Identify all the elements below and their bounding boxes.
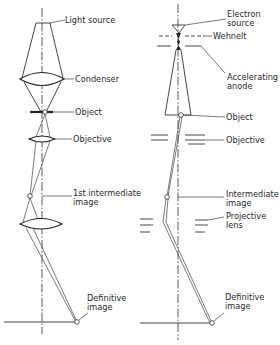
label-definitive-2: image: [87, 302, 113, 312]
electron-source: [172, 25, 185, 33]
leader: [183, 115, 225, 117]
definitive-image-point: [210, 321, 215, 326]
condenser-lens: [20, 73, 64, 86]
leader: [214, 313, 224, 321]
ray: [31, 141, 50, 196]
ray: [23, 198, 30, 222]
label-light-source: Light source: [65, 15, 115, 25]
objective-lens: [29, 136, 55, 142]
label-electron-source-2: source: [227, 18, 254, 28]
beam-cone-left: [165, 50, 176, 115]
ray: [166, 222, 212, 323]
ray: [26, 228, 76, 322]
leader: [185, 19, 226, 25]
ray: [163, 199, 166, 222]
ray: [163, 222, 210, 323]
object-point: [43, 110, 47, 114]
intermediate-image-point: [28, 194, 33, 199]
condenser-cone-left: [24, 82, 41, 112]
crossover: [176, 33, 181, 50]
leader: [79, 313, 88, 320]
ray: [33, 228, 77, 322]
label-condenser: Condenser: [75, 74, 120, 84]
beam-cone-right: [181, 50, 191, 115]
label-projective-2: lens: [226, 220, 243, 230]
illumination-cone-left: [22, 23, 36, 78]
condenser-cone-right: [46, 82, 61, 112]
label-wehnelt: Wehnelt: [213, 31, 247, 41]
ray: [36, 114, 45, 137]
ray: [166, 199, 168, 222]
object-point: [179, 113, 184, 118]
electron-microscope-panel: Electron source Wehnelt Accelerating ano…: [140, 4, 279, 340]
label-object: Object: [226, 112, 253, 122]
label-intermediate-2: image: [226, 198, 252, 208]
label-intermediate-2: image: [73, 197, 99, 207]
label-objective: Objective: [226, 135, 265, 145]
leader: [208, 217, 224, 220]
ray: [45, 114, 50, 137]
label-object: Object: [75, 107, 102, 117]
intermediate-image-point: [165, 195, 170, 200]
ray: [168, 117, 182, 196]
ray: [30, 141, 36, 196]
eyepiece-lens: [20, 219, 62, 230]
leader: [201, 46, 225, 73]
illumination-cone-right: [50, 23, 63, 78]
definitive-image-point: [75, 320, 80, 325]
label-anode-2: anode: [227, 81, 252, 91]
microscope-comparison-diagram: Light source Condenser Object Objective …: [0, 0, 280, 345]
label-definitive-2: image: [225, 301, 251, 311]
light-microscope-panel: Light source Condenser Object Objective …: [4, 8, 141, 334]
label-objective: Objective: [73, 134, 112, 144]
leader: [50, 20, 65, 23]
